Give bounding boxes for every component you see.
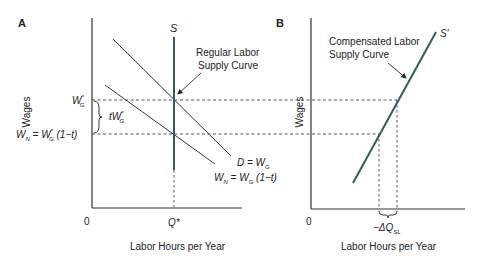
demand-label: D = WG bbox=[237, 157, 270, 170]
tax-labor-supply-diagram: A Wages S Regular Labor Supply Curve W*G… bbox=[0, 0, 478, 264]
q-star-label: Q* bbox=[168, 217, 181, 228]
regular-supply-annotation-line2: Supply Curve bbox=[198, 60, 258, 71]
regular-supply-arrow-icon bbox=[178, 73, 201, 94]
delta-quantity-brace-icon bbox=[379, 211, 397, 218]
tax-wedge-label: tW*G bbox=[109, 110, 125, 124]
gross-wage-label: W*G bbox=[72, 94, 85, 108]
compensated-supply-annotation-line1: Compensated Labor bbox=[329, 36, 420, 47]
compensated-supply-arrow-icon bbox=[388, 63, 406, 78]
demand-curve-net bbox=[105, 85, 215, 164]
panel-b-x-axis-label: Labor Hours per Year bbox=[341, 241, 437, 252]
panel-b-origin-label: 0 bbox=[306, 216, 312, 227]
regular-supply-annotation-line1: Regular Labor bbox=[196, 47, 260, 58]
panel-a-x-axis-label: Labor Hours per Year bbox=[130, 241, 226, 252]
net-wage-label: WN = W*G (1−t) bbox=[16, 128, 77, 142]
panel-b-y-axis-label: Wages bbox=[294, 97, 305, 128]
panel-a-origin-label: 0 bbox=[84, 216, 90, 227]
panel-b: B Wages S′ Compensated Labor Supply Curv… bbox=[276, 17, 465, 252]
compensated-supply-annotation-line2: Supply Curve bbox=[329, 49, 389, 60]
panel-a-label: A bbox=[18, 17, 26, 29]
supply-s-label: S bbox=[170, 22, 178, 34]
net-demand-label: WN = WG (1−t) bbox=[214, 172, 277, 185]
panel-b-label: B bbox=[276, 17, 284, 29]
panel-a-y-axis-label: Wages bbox=[21, 97, 32, 128]
supply-s-prime-label: S′ bbox=[440, 28, 450, 39]
delta-quantity-label: −ΔQSL bbox=[373, 222, 401, 235]
tax-wedge-brace-icon bbox=[94, 101, 102, 133]
